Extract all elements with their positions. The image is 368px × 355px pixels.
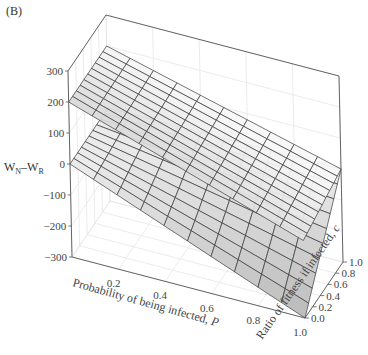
z-tick-label: 300	[47, 65, 64, 77]
z-tick-label: 100	[48, 127, 65, 139]
y-tick-label: 0.8	[341, 267, 355, 279]
z-tick-label: −200	[44, 220, 67, 232]
z-tick-label: 0	[60, 158, 66, 170]
y-tick-label: 0.2	[319, 301, 333, 313]
z-tick-label: −300	[44, 251, 67, 263]
x-axis-title: Probability of being infected, P	[71, 275, 221, 329]
y-tick-label: 0.4	[326, 290, 340, 302]
surface-plot: 3002001000−100−200−3000.20.40.60.81.00.0…	[0, 0, 368, 355]
y-tick-label: 1.0	[349, 256, 363, 268]
z-tick-label: 200	[47, 96, 64, 108]
z-tick-label: −100	[43, 189, 66, 201]
y-tick-label: 0.0	[311, 312, 325, 324]
x-tick-label: 1.0	[293, 326, 307, 338]
y-tick-label: 0.6	[334, 278, 348, 290]
z-axis-label: WN–WR	[4, 160, 44, 176]
